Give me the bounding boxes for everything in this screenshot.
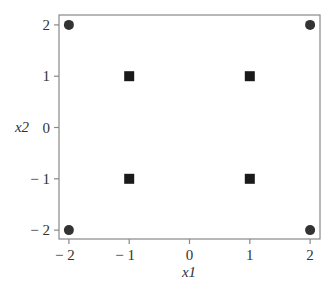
y-tick-label: 2 — [43, 17, 51, 33]
circle-marker — [64, 20, 74, 30]
x-axis-title: x1 — [181, 264, 196, 280]
x-tick-label: − 2 — [55, 247, 75, 263]
circle-marker — [64, 225, 74, 235]
y-tick-label: − 1 — [30, 171, 50, 187]
square-marker — [124, 174, 134, 184]
y-axis-title: x2 — [14, 119, 30, 135]
circle-marker — [305, 225, 315, 235]
y-tick-label: − 2 — [30, 222, 50, 238]
x-tick-label: 0 — [186, 247, 194, 263]
y-axis: − 2− 1012 — [30, 17, 59, 238]
square-marker — [245, 174, 255, 184]
square-marker — [245, 71, 255, 81]
plot-frame — [59, 15, 320, 239]
data-points — [64, 20, 315, 235]
x-tick-label: 1 — [246, 247, 254, 263]
scatter-chart: − 2− 1012 − 2− 1012 x1 x2 — [0, 0, 333, 294]
y-tick-label: 1 — [43, 68, 51, 84]
x-axis: − 2− 1012 — [55, 239, 314, 263]
x-tick-label: − 1 — [115, 247, 135, 263]
y-tick-label: 0 — [43, 120, 51, 136]
square-marker — [124, 71, 134, 81]
circle-marker — [305, 20, 315, 30]
x-tick-label: 2 — [306, 247, 314, 263]
